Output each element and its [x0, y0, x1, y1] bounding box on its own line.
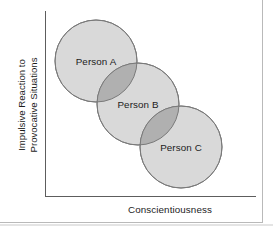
x-axis-label: Conscientiousness	[128, 204, 212, 215]
circle-label-person-b: Person B	[117, 99, 158, 110]
circle-label-person-c: Person C	[160, 142, 202, 153]
y-axis-label-line1: Impulsive Reaction to	[16, 58, 28, 153]
figure-root: Person A Person B Person C Impulsive Rea…	[0, 0, 273, 233]
circle-label-person-a: Person A	[76, 56, 117, 67]
y-axis-label-line2: Provocative Situations	[28, 58, 40, 153]
y-axis-label: Impulsive Reaction to Provocative Situat…	[14, 26, 42, 184]
